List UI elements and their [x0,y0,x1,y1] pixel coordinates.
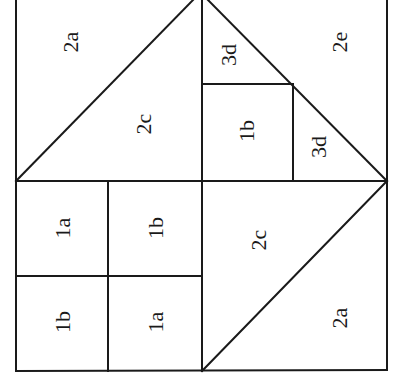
piece-label: 1b [234,120,259,142]
piece-labels: 2a 2c 3d 2e 1b 3d 1a 1b 1b 1a 2c 2a [50,31,352,333]
piece-label: 1a [50,217,75,238]
piece-label: 3d [216,44,241,66]
piece-label: 1b [50,311,75,333]
top-left-diagonal [16,0,193,181]
piece-label: 1b [143,217,168,239]
bottom-right-diagonal [202,181,387,371]
quilt-block-diagram: 2a 2c 3d 2e 1b 3d 1a 1b 1b 1a 2c 2a [0,0,398,374]
piece-label: 3d [306,136,331,158]
top-right-diagonal [208,0,387,181]
piece-label: 1a [143,311,168,332]
piece-label: 2a [327,307,352,328]
piece-label: 2c [246,229,271,250]
piece-label: 2e [327,32,352,53]
piece-label: 2a [58,31,83,52]
piece-label: 2c [131,113,156,134]
